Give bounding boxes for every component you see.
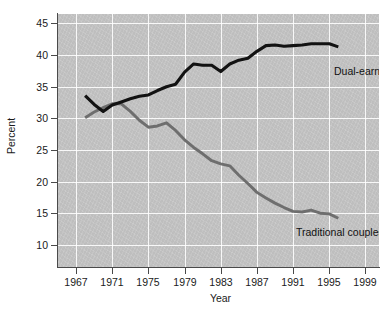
y-tick-mark-15 <box>51 213 57 214</box>
x-tick-label-1991: 1991 <box>273 277 313 288</box>
y-tick-label-30: 30 <box>20 113 48 124</box>
x-tick-label-1983: 1983 <box>201 277 241 288</box>
x-tick-label-1979: 1979 <box>165 277 205 288</box>
y-tick-label-15: 15 <box>20 208 48 219</box>
y-tick-label-20: 20 <box>20 177 48 188</box>
x-tick-mark-1979 <box>185 268 186 274</box>
x-axis-line <box>57 267 380 268</box>
x-tick-mark-1971 <box>112 268 113 274</box>
chart-container: Dual-earner couples Traditional couples … <box>0 0 391 310</box>
y-tick-mark-25 <box>51 150 57 151</box>
y-tick-mark-20 <box>51 182 57 183</box>
y-tick-mark-45 <box>51 23 57 24</box>
annotation-dual-earner-couples: Dual-earner couples <box>334 66 379 77</box>
y-tick-mark-10 <box>51 245 57 246</box>
x-tick-mark-1967 <box>76 268 77 274</box>
y-axis-line <box>57 13 58 268</box>
y-tick-mark-40 <box>51 55 57 56</box>
x-tick-label-1987: 1987 <box>237 277 277 288</box>
annotation-traditional-couples: Traditional couples <box>296 227 379 238</box>
x-tick-mark-1999 <box>365 268 366 274</box>
y-tick-mark-35 <box>51 87 57 88</box>
line-dual-earner-couples <box>85 44 338 112</box>
x-tick-mark-1987 <box>257 268 258 274</box>
x-tick-label-1971: 1971 <box>92 277 132 288</box>
x-axis-title: Year <box>0 292 391 304</box>
x-tick-label-1967: 1967 <box>56 277 96 288</box>
line-traditional-couples <box>85 104 338 218</box>
x-tick-label-1975: 1975 <box>128 277 168 288</box>
y-tick-label-45: 45 <box>20 18 48 29</box>
y-axis-title: Percent <box>5 106 17 166</box>
x-tick-mark-1995 <box>329 268 330 274</box>
y-tick-label-10: 10 <box>20 240 48 251</box>
x-tick-mark-1991 <box>293 268 294 274</box>
x-tick-mark-1983 <box>221 268 222 274</box>
y-tick-mark-30 <box>51 118 57 119</box>
x-tick-label-1995: 1995 <box>309 277 349 288</box>
y-tick-label-35: 35 <box>20 82 48 93</box>
x-tick-label-1999: 1999 <box>345 277 385 288</box>
plot-area: Dual-earner couples Traditional couples <box>58 14 379 267</box>
y-tick-label-25: 25 <box>20 145 48 156</box>
x-tick-mark-1975 <box>148 268 149 274</box>
y-tick-label-40: 40 <box>20 50 48 61</box>
